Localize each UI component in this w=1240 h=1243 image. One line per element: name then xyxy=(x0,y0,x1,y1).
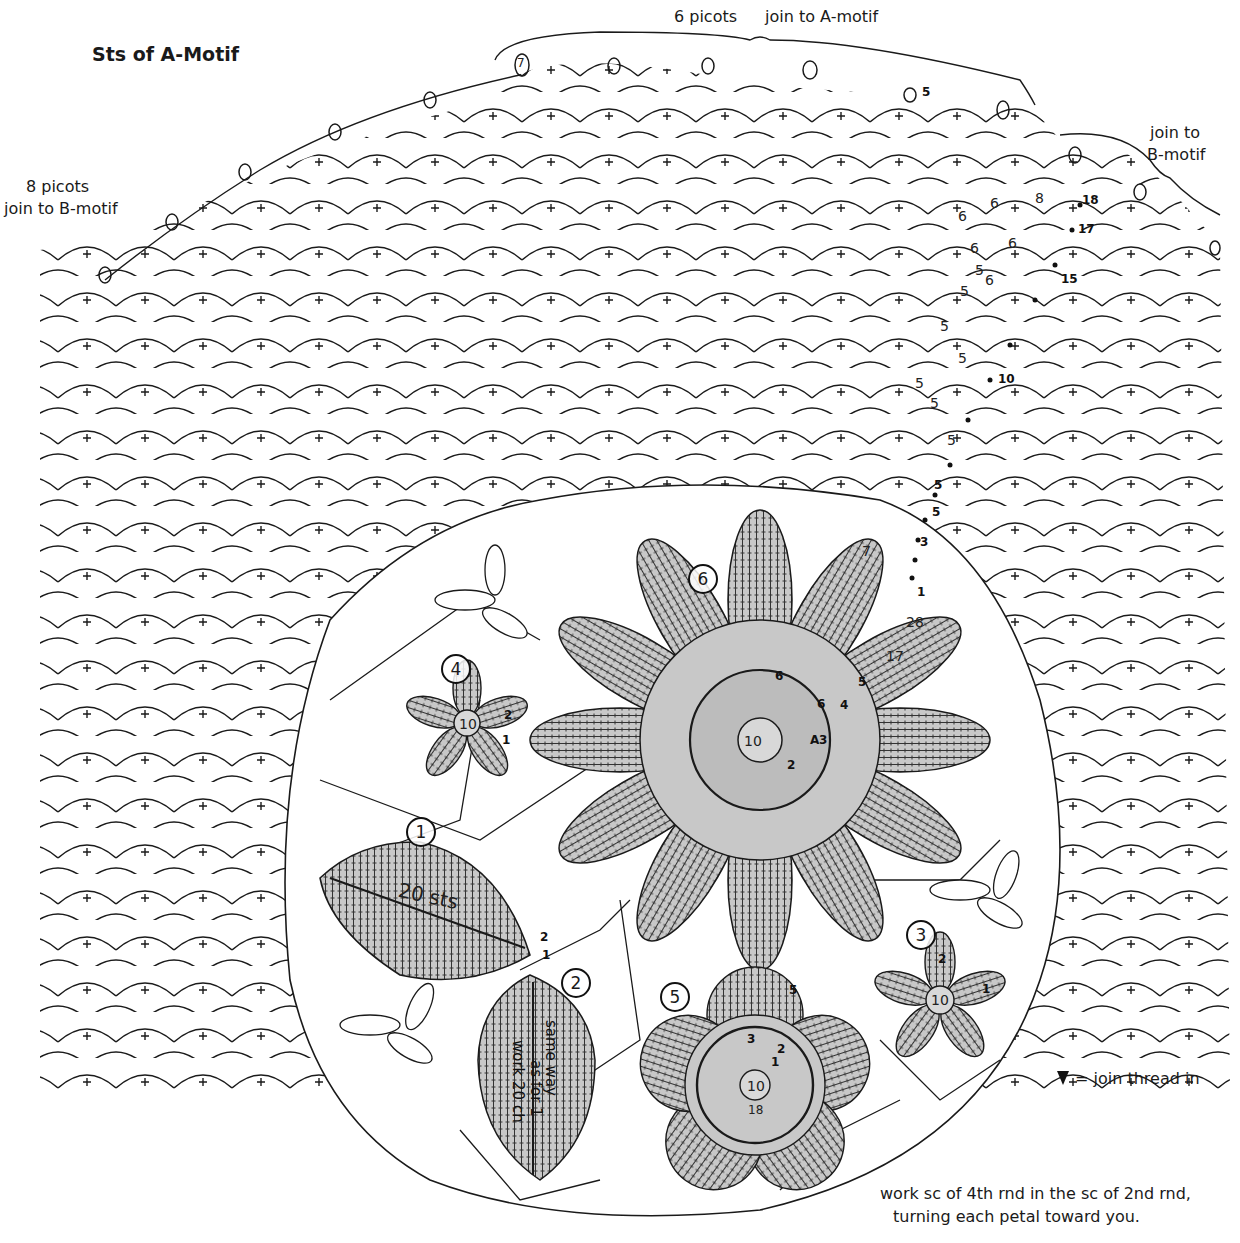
row-number-7: 7 xyxy=(862,543,871,559)
chain-count: 8 xyxy=(1035,190,1044,206)
row-number-15: 15 xyxy=(1061,272,1078,286)
motif-4-center: 10 xyxy=(459,716,477,732)
annotation-8-picots: 8 picots xyxy=(26,178,89,196)
motif-6-row-6b: 6 xyxy=(817,697,825,711)
motif-5-row-1: 1 xyxy=(771,1055,779,1069)
picot-count-5: 5 xyxy=(922,85,930,99)
motif-label-1: 1 xyxy=(406,817,436,847)
chart-title: Sts of A-Motif xyxy=(92,44,239,66)
row-number-18: 18 xyxy=(1082,193,1099,207)
chain-count: 6 xyxy=(985,272,994,288)
chain-count: 5 xyxy=(915,375,924,391)
motif-2-note-3: work 20 ch xyxy=(509,1040,527,1123)
motif-5-row-3: 3 xyxy=(747,1032,755,1046)
chain-count: 5 xyxy=(958,350,967,366)
chain-count: 6 xyxy=(990,195,999,211)
motif-1-row-1: 1 xyxy=(542,948,550,962)
join-thread-icon xyxy=(1057,1071,1069,1085)
motif-5-row-5: 5 xyxy=(789,983,797,997)
chain-count: 6 xyxy=(958,208,967,224)
row-number-10: 10 xyxy=(998,372,1015,386)
row-number-5b: 5 xyxy=(934,478,942,492)
annotation-6-picots: 6 picots xyxy=(674,8,737,26)
motif-4-row-1: 1 xyxy=(502,733,510,747)
motif-2-note-2: as for 1 xyxy=(527,1060,545,1117)
bottom-note-line2: turning each petal toward you. xyxy=(893,1208,1140,1226)
motif-3-row-2: 2 xyxy=(938,952,946,966)
row-number-17b: 17 xyxy=(886,648,904,664)
row-number-1: 1 xyxy=(917,585,925,599)
motif-6-row-6a: 6 xyxy=(775,669,783,683)
motif-6-row-4: 4 xyxy=(840,698,848,712)
motif-5-center: 10 xyxy=(747,1078,765,1094)
annotation-join-b-right-2: B-motif xyxy=(1147,146,1205,164)
chain-count: 5 xyxy=(930,395,939,411)
annotation-join-b-right-1: join to xyxy=(1150,124,1200,142)
motif-6-start-marker: A xyxy=(810,733,819,747)
motif-6-center: 10 xyxy=(744,733,762,749)
motif-4-row-2: 2 xyxy=(504,708,512,722)
motif-3-center: 10 xyxy=(931,992,949,1008)
chain-count: 5 xyxy=(975,262,984,278)
legend-text: = join thread in xyxy=(1075,1069,1200,1088)
motif-6-row-5: 5 xyxy=(858,675,866,689)
motif-3-row-1: 1 xyxy=(982,982,990,996)
motif-label-6: 6 xyxy=(688,564,718,594)
row-number-3: 3 xyxy=(920,535,928,549)
annotation-join-a: join to A-motif xyxy=(765,8,878,26)
chain-count: 5 xyxy=(940,318,949,334)
motif-6-row-2: 2 xyxy=(787,758,795,772)
chain-count: 5 xyxy=(947,432,956,448)
chain-count: 5 xyxy=(960,283,969,299)
crochet-chart xyxy=(0,0,1240,1243)
annotation-join-b-left: join to B-motif xyxy=(4,200,118,218)
motif-label-5: 5 xyxy=(660,982,690,1012)
motif-6-row-3: 3 xyxy=(819,733,827,747)
row-number-28: 28 xyxy=(906,614,924,630)
chain-count: 6 xyxy=(970,240,979,256)
motif-5-inner-count: 18 xyxy=(748,1103,763,1117)
row-number-5a: 5 xyxy=(932,505,940,519)
motif-label-2: 2 xyxy=(561,968,591,998)
motif-label-3: 3 xyxy=(906,920,936,950)
row-number-17: 17 xyxy=(1078,222,1095,236)
chain-count: 6 xyxy=(1008,235,1017,251)
legend-join-thread: = join thread in xyxy=(1057,1070,1200,1088)
motif-label-4: 4 xyxy=(441,654,471,684)
bottom-note-line1: work sc of 4th rnd in the sc of 2nd rnd, xyxy=(880,1185,1191,1203)
motif-5-row-2: 2 xyxy=(777,1042,785,1056)
picot-count: 7 xyxy=(517,56,525,70)
motif-1-row-2: 2 xyxy=(540,930,548,944)
